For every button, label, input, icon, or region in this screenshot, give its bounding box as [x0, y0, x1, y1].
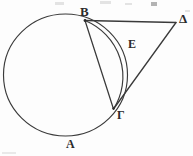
point-b-marker [84, 19, 87, 22]
main-circle [4, 14, 128, 136]
scan-artifact [125, 3, 132, 5]
label-point-delta: Δ [179, 12, 187, 25]
scan-artifact [100, 1, 111, 4]
arc-b-e-gamma [85, 21, 123, 110]
segment-b-delta [85, 21, 176, 23]
scan-artifact [151, 2, 157, 6]
label-point-a: A [66, 138, 75, 150]
scan-artifact [2, 152, 16, 154]
geometry-figure: B Δ E Γ A [0, 0, 193, 156]
point-gamma-marker [112, 107, 114, 109]
figure-canvas [0, 0, 193, 156]
scan-artifact [55, 2, 64, 5]
segment-b-gamma [85, 21, 114, 110]
label-point-b: B [80, 5, 89, 18]
label-point-gamma: Γ [117, 109, 125, 121]
segment-delta-gamma [114, 23, 177, 110]
label-point-e: E [128, 38, 136, 50]
